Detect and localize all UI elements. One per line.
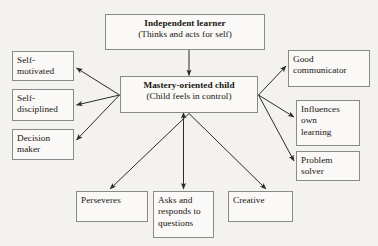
node-influences-own-learning: Influences own learning [296,100,360,146]
node-self-disciplined-line2: disciplined [17,104,69,115]
arrow-mastery-to-influences-own-learning [259,95,295,117]
arrow-mastery-to-self-disciplined [77,95,120,105]
node-mastery-oriented-child-subtitle: (Child feels in control) [125,91,253,102]
node-self-disciplined-line1: Self- [17,93,69,104]
node-self-disciplined: Self- disciplined [12,89,74,121]
node-influences-own-learning-line3: learning [301,127,355,138]
node-asks-and-responds-line3: questions [158,218,209,229]
node-good-communicator-line2: communicator [293,65,365,76]
node-independent-learner: Independent learner (Thinks and acts for… [105,14,265,50]
node-influences-own-learning-line1: Influences [301,104,355,115]
arrow-mastery-to-good-communicator [259,66,287,95]
node-asks-and-responds: Asks and responds to questions [153,191,214,238]
arrow-mastery-to-perseveres [110,114,189,190]
node-decision-maker-line1: Decision [17,133,69,144]
arrow-mastery-to-creative [189,114,266,190]
node-good-communicator-line1: Good [293,54,365,65]
node-creative-line1: Creative [233,195,288,206]
node-perseveres: Perseveres [76,191,148,222]
arrow-mastery-to-decision-maker [77,95,120,140]
node-perseveres-line1: Perseveres [81,195,143,206]
node-asks-and-responds-line2: responds to [158,206,209,217]
node-mastery-oriented-child: Mastery-oriented child (Child feels in c… [120,76,258,113]
node-mastery-oriented-child-title: Mastery-oriented child [125,80,253,91]
node-problem-solver: Problem solver [296,151,360,181]
node-good-communicator: Good communicator [288,50,370,87]
node-self-motivated-line1: Self- [17,55,69,66]
node-self-motivated-line2: motivated [17,66,69,77]
concept-map-diagram: Independent learner (Thinks and acts for… [0,0,378,246]
node-asks-and-responds-line1: Asks and [158,195,209,206]
node-decision-maker-line2: maker [17,144,69,155]
node-independent-learner-subtitle: (Thinks and acts for self) [110,29,260,40]
node-decision-maker: Decision maker [12,129,74,160]
node-problem-solver-line1: Problem [301,155,355,166]
node-problem-solver-line2: solver [301,166,355,177]
node-creative: Creative [228,191,293,222]
node-self-motivated: Self- motivated [12,51,74,81]
arrow-mastery-to-problem-solver [259,95,295,161]
node-independent-learner-title: Independent learner [110,18,260,29]
node-influences-own-learning-line2: own [301,115,355,126]
arrow-mastery-to-self-motivated [77,68,120,95]
